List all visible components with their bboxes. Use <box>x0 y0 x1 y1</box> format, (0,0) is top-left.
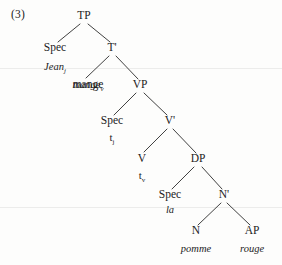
tree-node-nbar: N' <box>219 188 229 200</box>
tree-terminal-trace-v: tv <box>139 169 146 184</box>
tree-terminal-jean: Jeanj <box>44 61 66 75</box>
tree-terminal-pomme: pomme <box>180 243 212 254</box>
syntax-tree-figure: (3) TPSpecT'mangeVPSpecV'VDPSpecN'NAP Je… <box>0 0 282 265</box>
tree-branch <box>116 56 138 79</box>
tree-branch <box>172 167 194 189</box>
tree-branch <box>198 203 221 225</box>
tree-branch <box>227 203 250 225</box>
tree-branch <box>173 129 196 153</box>
tree-branch <box>202 167 222 189</box>
tree-node-n: N <box>192 224 201 236</box>
tree-terminal-mange: mangev <box>72 79 104 93</box>
tree-terminal-rouge: rouge <box>240 243 264 254</box>
tree-branch <box>144 93 167 115</box>
tree-branch <box>114 93 136 115</box>
tree-node-vbar: V' <box>165 114 175 126</box>
tree-branch <box>86 56 109 78</box>
tree-node-spec-tp: Spec <box>44 41 66 54</box>
tree-node-tp: TP <box>77 9 90 21</box>
tree-node-v: V <box>138 152 147 164</box>
node-layer: TPSpecT'mangeVPSpecV'VDPSpecN'NAP <box>44 9 260 236</box>
tree-branch <box>88 24 110 42</box>
tree-branch <box>144 129 167 152</box>
tree-node-vp: VP <box>133 78 148 90</box>
terminal-layer: Jeanjmangevtjtvlapommerouge <box>44 61 264 254</box>
tree-node-ap: AP <box>245 224 260 236</box>
tree-branch <box>58 24 80 42</box>
tree-node-tbar: T' <box>107 41 116 53</box>
tree-terminal-trace-j: tj <box>109 131 114 146</box>
tree-terminal-la: la <box>166 204 174 215</box>
tree-node-spec-vp: Spec <box>101 114 123 127</box>
tree-node-dp: DP <box>191 152 206 164</box>
tree-node-spec-dp: Spec <box>159 188 181 201</box>
tree-canvas: TPSpecT'mangeVPSpecV'VDPSpecN'NAP Jeanjm… <box>0 0 282 265</box>
